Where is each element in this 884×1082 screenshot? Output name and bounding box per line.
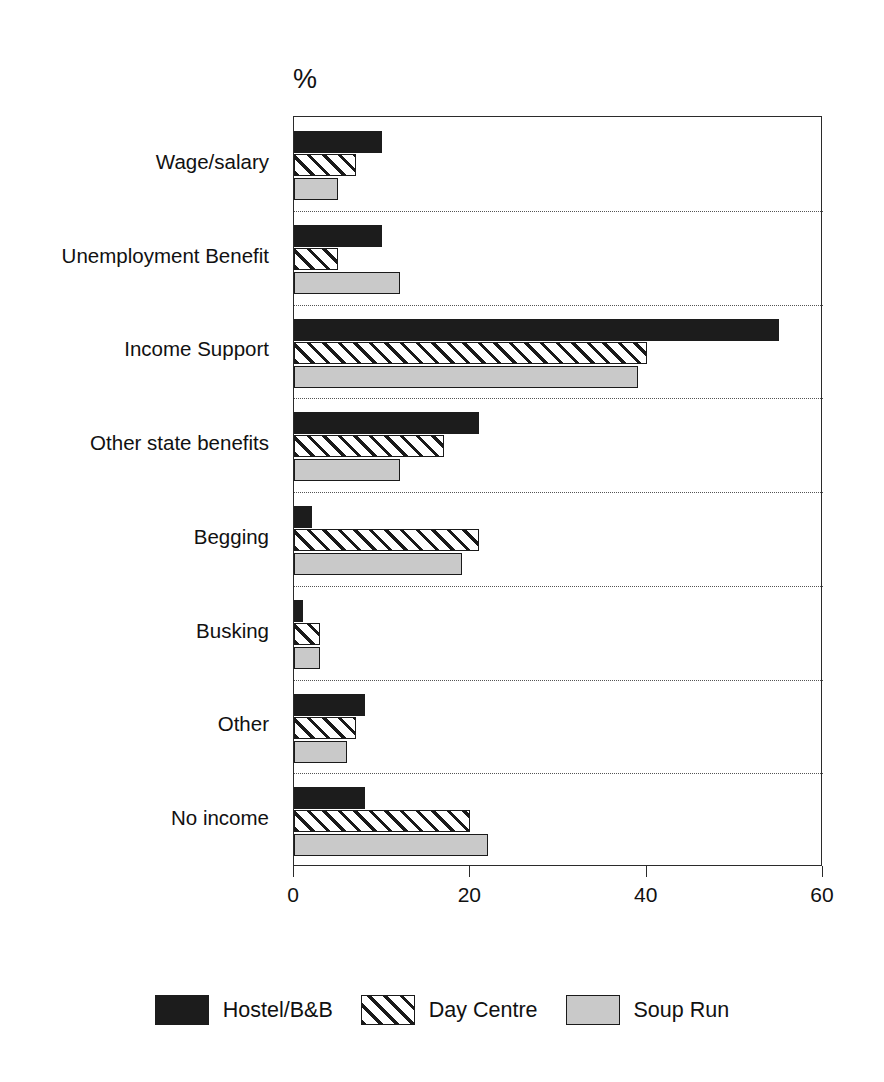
bar-group xyxy=(294,319,823,399)
legend-swatch-icon xyxy=(155,995,209,1025)
x-axis-tick-label: 0 xyxy=(287,882,299,907)
bar-soup-run xyxy=(294,459,400,481)
category-label: Unemployment Benefit xyxy=(62,244,269,268)
bar-day-centre xyxy=(294,717,356,739)
legend-item: Soup Run xyxy=(566,995,730,1025)
bar-soup-run xyxy=(294,834,488,856)
bar-soup-run xyxy=(294,366,638,388)
bar-hostel-b-b xyxy=(294,787,365,809)
legend-item: Day Centre xyxy=(361,995,538,1025)
bar-soup-run xyxy=(294,741,347,763)
bar-soup-run xyxy=(294,272,400,294)
x-axis-tick xyxy=(646,866,647,877)
bar-hostel-b-b xyxy=(294,506,312,528)
bar-day-centre xyxy=(294,154,356,176)
bar-hostel-b-b xyxy=(294,131,382,153)
category-label: Other xyxy=(218,712,269,736)
legend-item: Hostel/B&B xyxy=(155,995,333,1025)
x-axis-tick xyxy=(293,866,294,877)
legend-swatch-icon xyxy=(566,995,620,1025)
bar-soup-run xyxy=(294,647,320,669)
bar-group xyxy=(294,225,823,305)
category-label: No income xyxy=(171,806,269,830)
bar-group xyxy=(294,787,823,867)
bar-hostel-b-b xyxy=(294,225,382,247)
bar-day-centre xyxy=(294,435,444,457)
legend-label: Day Centre xyxy=(429,997,538,1023)
x-axis-tick-label: 20 xyxy=(458,882,481,907)
bar-soup-run xyxy=(294,553,462,575)
x-axis-tick-label: 40 xyxy=(634,882,657,907)
plot-area xyxy=(293,116,822,866)
gridline xyxy=(294,773,823,774)
x-axis-tick xyxy=(822,866,823,877)
bar-group xyxy=(294,131,823,211)
bar-chart: % Wage/salaryUnemployment BenefitIncome … xyxy=(0,0,884,1082)
gridline xyxy=(294,492,823,493)
bar-day-centre xyxy=(294,248,338,270)
bar-group xyxy=(294,600,823,680)
chart-legend: Hostel/B&BDay CentreSoup Run xyxy=(0,995,884,1025)
gridline xyxy=(294,211,823,212)
axis-unit-label: % xyxy=(293,62,318,96)
legend-label: Hostel/B&B xyxy=(223,997,333,1023)
bar-soup-run xyxy=(294,178,338,200)
bar-hostel-b-b xyxy=(294,319,779,341)
x-axis-tick-label: 60 xyxy=(810,882,833,907)
category-label: Other state benefits xyxy=(90,431,269,455)
category-axis-labels: Wage/salaryUnemployment BenefitIncome Su… xyxy=(0,116,281,866)
gridline xyxy=(294,398,823,399)
legend-swatch-icon xyxy=(361,995,415,1025)
bar-hostel-b-b xyxy=(294,412,479,434)
bar-hostel-b-b xyxy=(294,694,365,716)
category-label: Begging xyxy=(194,525,269,549)
x-axis: 0204060 xyxy=(293,866,822,926)
bar-day-centre xyxy=(294,529,479,551)
gridline xyxy=(294,680,823,681)
gridline xyxy=(294,586,823,587)
bar-group xyxy=(294,412,823,492)
x-axis-tick xyxy=(469,866,470,877)
category-label: Income Support xyxy=(124,337,269,361)
bar-day-centre xyxy=(294,623,320,645)
bar-day-centre xyxy=(294,342,647,364)
legend-label: Soup Run xyxy=(634,997,730,1023)
category-label: Wage/salary xyxy=(156,150,269,174)
category-label: Busking xyxy=(196,619,269,643)
bar-group xyxy=(294,506,823,586)
bar-hostel-b-b xyxy=(294,600,303,622)
gridline xyxy=(294,305,823,306)
bar-day-centre xyxy=(294,810,470,832)
bar-group xyxy=(294,694,823,774)
